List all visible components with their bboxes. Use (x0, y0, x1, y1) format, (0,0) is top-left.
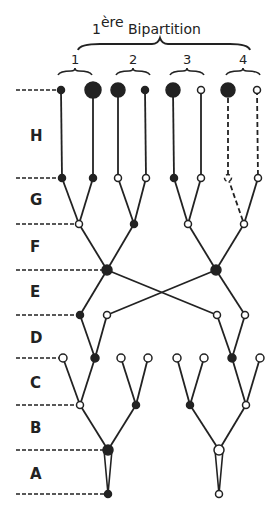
edge (95, 315, 107, 358)
group-label: 4 (239, 52, 247, 67)
node-D (104, 312, 111, 319)
diagram-title: 1 ère Bipartition (92, 14, 201, 37)
node-bottom (105, 491, 112, 498)
edge (79, 224, 107, 270)
edge (121, 358, 136, 405)
edge (80, 315, 95, 358)
node-C (256, 354, 264, 362)
edge (217, 315, 232, 358)
edge (188, 224, 216, 270)
group-label: 3 (183, 52, 191, 67)
node-C (144, 354, 152, 362)
row-labels: HGFEDCBA (30, 127, 43, 483)
node-G (198, 175, 205, 182)
node-bottom (216, 491, 223, 498)
title-prefix: 1 (92, 21, 101, 37)
lineage-edges (61, 90, 260, 494)
node-E (211, 265, 221, 275)
node-F (76, 221, 83, 228)
row-label-D: D (30, 329, 42, 347)
node-B (187, 402, 194, 409)
node-F (241, 221, 248, 228)
node-F (185, 221, 192, 228)
row-label-H: H (30, 127, 43, 145)
edge (228, 178, 244, 224)
edge (190, 358, 204, 405)
edge (232, 315, 245, 358)
title-text: Bipartition (128, 21, 201, 37)
node-E (102, 265, 112, 275)
edge (174, 178, 188, 224)
row-label-B: B (30, 419, 41, 437)
node-top (58, 87, 65, 94)
group-brace (116, 68, 150, 75)
node-G (143, 175, 150, 182)
edge (62, 178, 79, 224)
edge (80, 358, 95, 405)
edge (107, 224, 134, 270)
edge (219, 405, 246, 450)
group-label: 2 (129, 52, 137, 67)
row-label-G: G (30, 191, 42, 209)
node-D (214, 312, 221, 319)
node-top (111, 83, 125, 97)
edge (104, 450, 112, 494)
lineage-nodes (58, 82, 265, 498)
edge (244, 178, 258, 224)
edge (246, 358, 260, 405)
group-brace (226, 68, 260, 75)
edge (188, 178, 201, 224)
node-G (171, 175, 178, 182)
row-label-E: E (30, 283, 40, 301)
edge (190, 405, 219, 450)
node-A (214, 445, 224, 455)
edge (63, 358, 80, 405)
edge (232, 358, 246, 405)
edge (177, 358, 190, 405)
main-brace (78, 38, 250, 50)
edge (80, 270, 107, 315)
node-G (255, 175, 262, 182)
node-C (173, 354, 181, 362)
node-B (243, 402, 250, 409)
group-labels: 1234 (58, 52, 260, 75)
node-F (131, 221, 138, 228)
group-brace (170, 68, 204, 75)
edge (145, 90, 146, 178)
node-top (198, 87, 205, 94)
bipartition-diagram: 1 ère Bipartition 1234 HGFEDCBA (0, 0, 278, 514)
node-D (242, 312, 249, 319)
node-top (254, 87, 261, 94)
row-label-C: C (30, 374, 41, 392)
edge (108, 405, 136, 450)
node-G (59, 175, 66, 182)
edge (134, 178, 146, 224)
group-brace (58, 68, 92, 75)
row-label-F: F (30, 238, 40, 256)
node-C (228, 354, 236, 362)
node-top (142, 87, 149, 94)
node-C (200, 354, 208, 362)
edge (216, 270, 245, 315)
node-B (77, 402, 84, 409)
edge (79, 178, 93, 224)
edge (80, 405, 108, 450)
node-C (117, 354, 125, 362)
edge (173, 90, 174, 178)
node-G (225, 175, 232, 182)
edge (136, 358, 148, 405)
node-C (59, 354, 67, 362)
node-C (91, 354, 99, 362)
node-top (85, 82, 101, 98)
edge (215, 450, 223, 494)
node-D (77, 312, 84, 319)
node-B (133, 402, 140, 409)
node-top (221, 83, 235, 97)
title-superscript: ère (101, 14, 124, 30)
edge (257, 90, 258, 178)
edge (118, 178, 134, 224)
edge (61, 90, 62, 178)
row-label-A: A (30, 465, 42, 483)
node-top (166, 83, 180, 97)
node-G (115, 175, 122, 182)
